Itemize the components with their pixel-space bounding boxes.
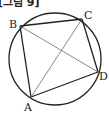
side-bc: [20, 19, 82, 26]
side-ab: [20, 26, 31, 97]
cyclic-quadrilateral-diagram: B C D A: [0, 0, 109, 113]
label-point-b: B: [9, 18, 17, 31]
circumscribed-circle: [9, 13, 101, 105]
label-point-a: A: [23, 101, 33, 113]
side-da: [31, 72, 98, 97]
label-point-c: C: [84, 9, 92, 22]
label-point-d: D: [99, 70, 108, 83]
